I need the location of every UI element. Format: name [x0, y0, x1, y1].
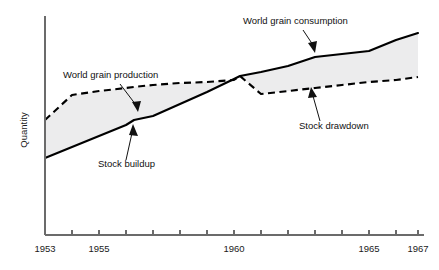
annotation-world-grain-consumption: World grain consumption	[243, 15, 348, 26]
x-tick-label-1953: 1953	[34, 243, 55, 254]
leader-line-buildup	[126, 133, 132, 160]
chart-container: 1953 1955 1960 1965 1967 Quantity World …	[0, 0, 439, 270]
leader-arrow-buildup	[129, 124, 138, 136]
leader-arrow-consumption	[308, 41, 317, 53]
leader-line-drawdown	[313, 96, 320, 121]
x-tick-label-1955: 1955	[88, 243, 109, 254]
x-tick-label-1965: 1965	[358, 243, 379, 254]
x-axis-ticks	[45, 230, 418, 235]
annotation-stock-drawdown: Stock drawdown	[299, 120, 369, 131]
x-tick-label-1960: 1960	[223, 243, 244, 254]
annotation-world-grain-production: World grain production	[63, 69, 158, 80]
x-tick-label-1967: 1967	[407, 243, 428, 254]
line-chart-figure: 1953 1955 1960 1965 1967 Quantity World …	[0, 0, 439, 270]
y-axis-label: Quantity	[18, 112, 29, 148]
